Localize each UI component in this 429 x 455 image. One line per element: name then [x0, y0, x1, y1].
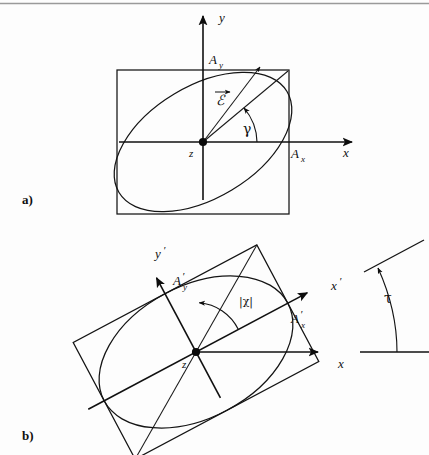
- panel-b-y-prime-axis: [157, 278, 221, 398]
- panel-a-field-vector: [203, 67, 260, 142]
- panel-b-x-prime-axis-label: x ′: [330, 275, 342, 293]
- panel-a-amplitude-x-label: A x: [290, 146, 305, 164]
- panel-b-origin-label: z: [181, 358, 187, 370]
- svg-text:A: A: [290, 311, 299, 326]
- figure-container: y x z A y A x ℰ γ a): [0, 0, 429, 455]
- svg-text:A: A: [172, 273, 181, 288]
- svg-text:ℰ: ℰ: [216, 92, 226, 108]
- svg-text:x: x: [300, 154, 305, 164]
- tau-arc: [378, 268, 397, 352]
- svg-text:y: y: [218, 60, 223, 70]
- svg-text:y: y: [153, 246, 161, 261]
- panel-b-tau-label: τ: [384, 290, 392, 306]
- svg-text:′: ′: [163, 244, 166, 256]
- panel-b-x-axis-label: x: [337, 356, 344, 371]
- tau-tilted-line: [364, 240, 424, 272]
- panel-b-y-prime-axis-label: y ′: [153, 244, 166, 261]
- panel-a-origin-label: z: [188, 147, 194, 159]
- svg-text:A: A: [290, 146, 299, 161]
- svg-text:A: A: [208, 52, 217, 67]
- panel-a-origin-dot: [199, 138, 207, 146]
- panel-b-caption-label: b): [22, 428, 34, 443]
- panel-b: τ y ′ x ′ x z A ′ y A ′ x: [22, 219, 429, 455]
- svg-text:x: x: [300, 320, 305, 330]
- panel-a-caption-label: a): [22, 192, 33, 207]
- panel-a-gamma-label: γ: [243, 121, 251, 137]
- panel-b-origin-dot: [192, 348, 200, 356]
- panel-b-rotated-frame: [49, 219, 338, 455]
- panel-b-tau-indicator: τ: [360, 240, 429, 352]
- panel-a-y-axis-label: y: [217, 10, 225, 25]
- panel-a-amplitude-y-label: A y: [208, 52, 223, 70]
- panel-a-x-axis-label: x: [342, 145, 349, 160]
- svg-text:′: ′: [182, 270, 185, 282]
- panel-b-ellipticity-label: |χ|: [239, 295, 253, 309]
- svg-text:′: ′: [339, 275, 342, 287]
- polarization-ellipse-figure: y x z A y A x ℰ γ a): [0, 0, 429, 455]
- svg-text:′: ′: [300, 308, 303, 320]
- svg-text:x: x: [330, 278, 337, 293]
- panel-a-field-vector-label: ℰ: [215, 92, 230, 108]
- panel-a: y x z A y A x ℰ γ a): [22, 10, 352, 240]
- svg-text:y: y: [182, 282, 187, 292]
